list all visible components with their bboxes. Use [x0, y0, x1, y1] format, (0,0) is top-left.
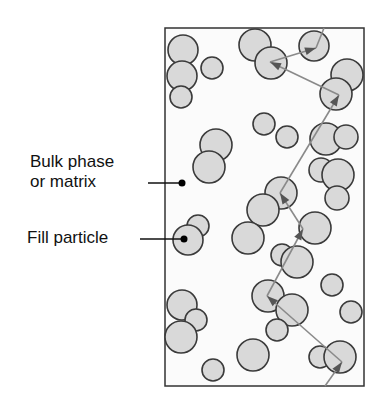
bulk-phase-label-line1: Bulk phase	[30, 152, 114, 172]
leader-dot-icon	[181, 236, 188, 243]
fill-particle	[253, 113, 275, 135]
fill-particle	[237, 339, 269, 371]
leader-dot-icon	[179, 180, 186, 187]
fill-particle	[170, 86, 192, 108]
fill-particle	[299, 31, 329, 61]
fill-particle-label: Fill particle	[27, 228, 108, 248]
fill-particle	[201, 57, 223, 79]
fill-particle	[321, 274, 343, 296]
fill-particle	[165, 321, 197, 353]
fill-particle	[247, 194, 279, 226]
fill-particle	[193, 151, 225, 183]
fill-particle	[299, 212, 331, 244]
fill-particle	[276, 126, 298, 148]
composite-diagram	[0, 0, 389, 402]
bulk-phase-label-line2: or matrix	[30, 172, 114, 192]
fill-particle	[266, 319, 288, 341]
fill-particle	[334, 125, 358, 149]
bulk-phase-label: Bulk phase or matrix	[30, 152, 114, 192]
fill-particle	[340, 301, 362, 323]
fill-particle	[232, 222, 264, 254]
fill-particle	[202, 359, 224, 381]
fill-particle-label-text: Fill particle	[27, 228, 108, 248]
fill-particle	[173, 225, 203, 255]
fill-particle	[325, 186, 349, 210]
